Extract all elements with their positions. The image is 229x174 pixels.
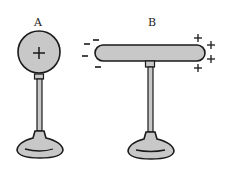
collar-b — [146, 61, 155, 67]
base-b — [128, 132, 174, 159]
object-a — [17, 31, 63, 158]
rod-b — [95, 45, 205, 61]
rod-stand-b — [148, 67, 153, 132]
object-b — [82, 34, 215, 159]
base-a — [17, 131, 63, 158]
rod-stand-a — [37, 79, 42, 131]
collar-a — [35, 74, 44, 79]
electrostatics-diagram — [0, 0, 229, 174]
